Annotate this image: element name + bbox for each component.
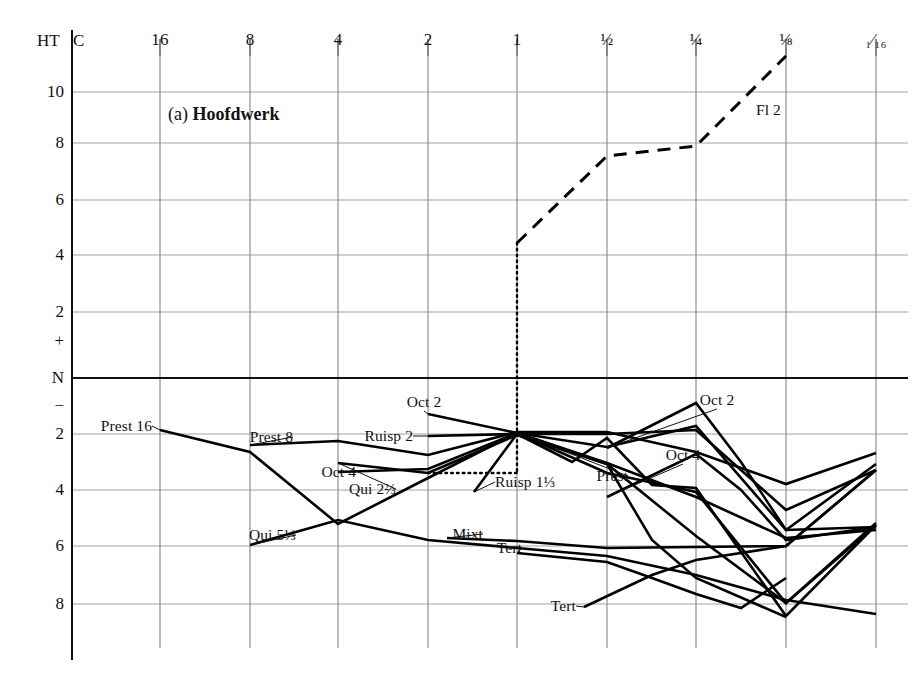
series-label: Ruisp 2: [364, 427, 413, 445]
axis-corner-c: C: [73, 31, 84, 51]
x-axis-tick-label: ⅛: [780, 30, 793, 50]
series-label: Prest 16: [101, 417, 152, 435]
series-label: Oct 2: [407, 393, 442, 411]
series-label: Qui 5⅓: [249, 526, 296, 544]
x-axis-tick-label: 1: [513, 30, 522, 50]
x-axis-tick-label: 8: [246, 30, 255, 50]
y-axis-tick-label: 10: [47, 82, 64, 102]
y-axis-tick-label: 6: [56, 536, 65, 556]
series-line: [517, 56, 786, 243]
grid-lines: [72, 39, 908, 648]
y-axis-tick-label: 8: [56, 133, 65, 153]
series-label: Fl 2: [756, 101, 781, 119]
series-label: Qui 2⅔: [349, 480, 396, 498]
x-axis-tick-label: 2: [424, 30, 433, 50]
axis-corner-ht: HT: [37, 31, 60, 51]
chart-figure: (a) Hoofdwerk HT C 168421½¼⅛₁⁄₁₆ 108642+…: [0, 0, 923, 673]
series-label: Oct 2: [700, 391, 735, 409]
title-main: Hoofdwerk: [192, 104, 279, 124]
y-axis-tick-label: 2: [56, 302, 65, 322]
series-label: Ruisp 1⅓: [495, 473, 555, 491]
series-label: Mixt: [452, 525, 483, 543]
y-axis-tick-label: 4: [56, 480, 65, 500]
y-axis-tick-label: N: [52, 368, 64, 388]
y-axis-tick-label: −: [54, 396, 64, 416]
series-label: Tert: [551, 597, 576, 615]
title-prefix: (a): [168, 104, 188, 124]
series-label: Oct 4: [666, 446, 701, 464]
series-label: Prest 8: [250, 428, 293, 446]
series-label: Prest: [597, 467, 629, 485]
x-axis-tick-label: ½: [601, 30, 614, 50]
x-axis-tick-label: ¼: [690, 30, 703, 50]
page-title: (a) Hoofdwerk: [168, 104, 279, 125]
x-axis-tick-label: 16: [151, 30, 168, 50]
x-axis-tick-label: 4: [334, 30, 343, 50]
y-axis-tick-label: +: [54, 331, 64, 351]
x-axis-tick-label: ₁⁄₁₆: [865, 30, 886, 50]
series-label: Tert: [497, 539, 522, 557]
chart-plot-area: [0, 0, 923, 673]
series-label: Oct 4: [321, 463, 356, 481]
y-axis-tick-label: 8: [56, 594, 65, 614]
y-axis-tick-label: 6: [56, 190, 65, 210]
y-axis-tick-label: 4: [56, 245, 65, 265]
y-axis-tick-label: 2: [56, 424, 65, 444]
